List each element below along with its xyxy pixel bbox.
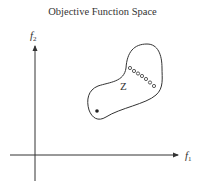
region-label: Z xyxy=(120,80,127,92)
objective-space-diagram: f1 f2 Z xyxy=(0,0,205,188)
pareto-front-points xyxy=(128,66,155,87)
f1-label: f1 xyxy=(185,149,192,163)
f2-label: f2 xyxy=(30,29,37,43)
filled-point xyxy=(95,109,99,113)
